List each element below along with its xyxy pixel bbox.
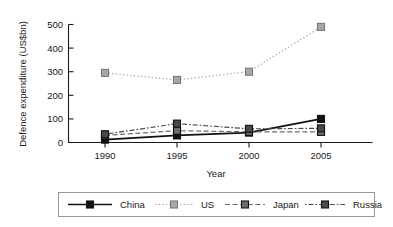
data-point <box>246 125 253 132</box>
y-ticklabel: 400 <box>47 43 63 54</box>
data-point <box>174 127 181 134</box>
y-ticklabel: 500 <box>47 19 63 30</box>
data-point <box>318 125 325 132</box>
data-point <box>102 131 109 138</box>
series-line <box>105 27 321 80</box>
y-ticklabel: 200 <box>47 90 63 101</box>
x-ticklabel: 1990 <box>94 150 115 161</box>
line-chart: Defence expenditure (US$bn) 0 100 200 30… <box>0 0 393 227</box>
x-ticklabel: 2005 <box>310 150 331 161</box>
legend-marker <box>87 201 94 208</box>
data-point <box>246 68 253 75</box>
legend-label: Japan <box>273 199 299 210</box>
data-point <box>174 120 181 127</box>
y-ticklabel: 300 <box>47 66 63 77</box>
legend-label: Russia <box>353 199 383 210</box>
x-axis-ticklabels: 1990 1995 2000 2005 <box>94 150 331 161</box>
y-ticklabel: 100 <box>47 113 63 124</box>
x-ticklabel: 1995 <box>166 150 187 161</box>
x-ticklabel: 2000 <box>238 150 259 161</box>
series-us <box>102 23 325 83</box>
series-china <box>102 115 325 143</box>
legend-marker <box>242 201 249 208</box>
series-layer <box>102 23 325 143</box>
data-point <box>174 76 181 83</box>
y-axis-title: Defence expenditure (US$bn) <box>17 21 28 147</box>
y-ticklabel: 0 <box>58 137 63 148</box>
x-axis-ticks <box>105 143 321 148</box>
legend-label: China <box>120 199 146 210</box>
y-axis-ticklabels: 0 100 200 300 400 500 <box>47 19 63 148</box>
y-axis-ticks <box>69 25 74 143</box>
x-axis-title: Year <box>206 168 225 179</box>
data-point <box>318 115 325 122</box>
data-point <box>318 23 325 30</box>
legend-marker <box>322 201 329 208</box>
data-point <box>102 69 109 76</box>
chart-figure: Defence expenditure (US$bn) 0 100 200 30… <box>0 0 393 227</box>
legend-label: US <box>201 199 214 210</box>
legend-marker <box>171 201 178 208</box>
series-russia <box>102 120 325 138</box>
